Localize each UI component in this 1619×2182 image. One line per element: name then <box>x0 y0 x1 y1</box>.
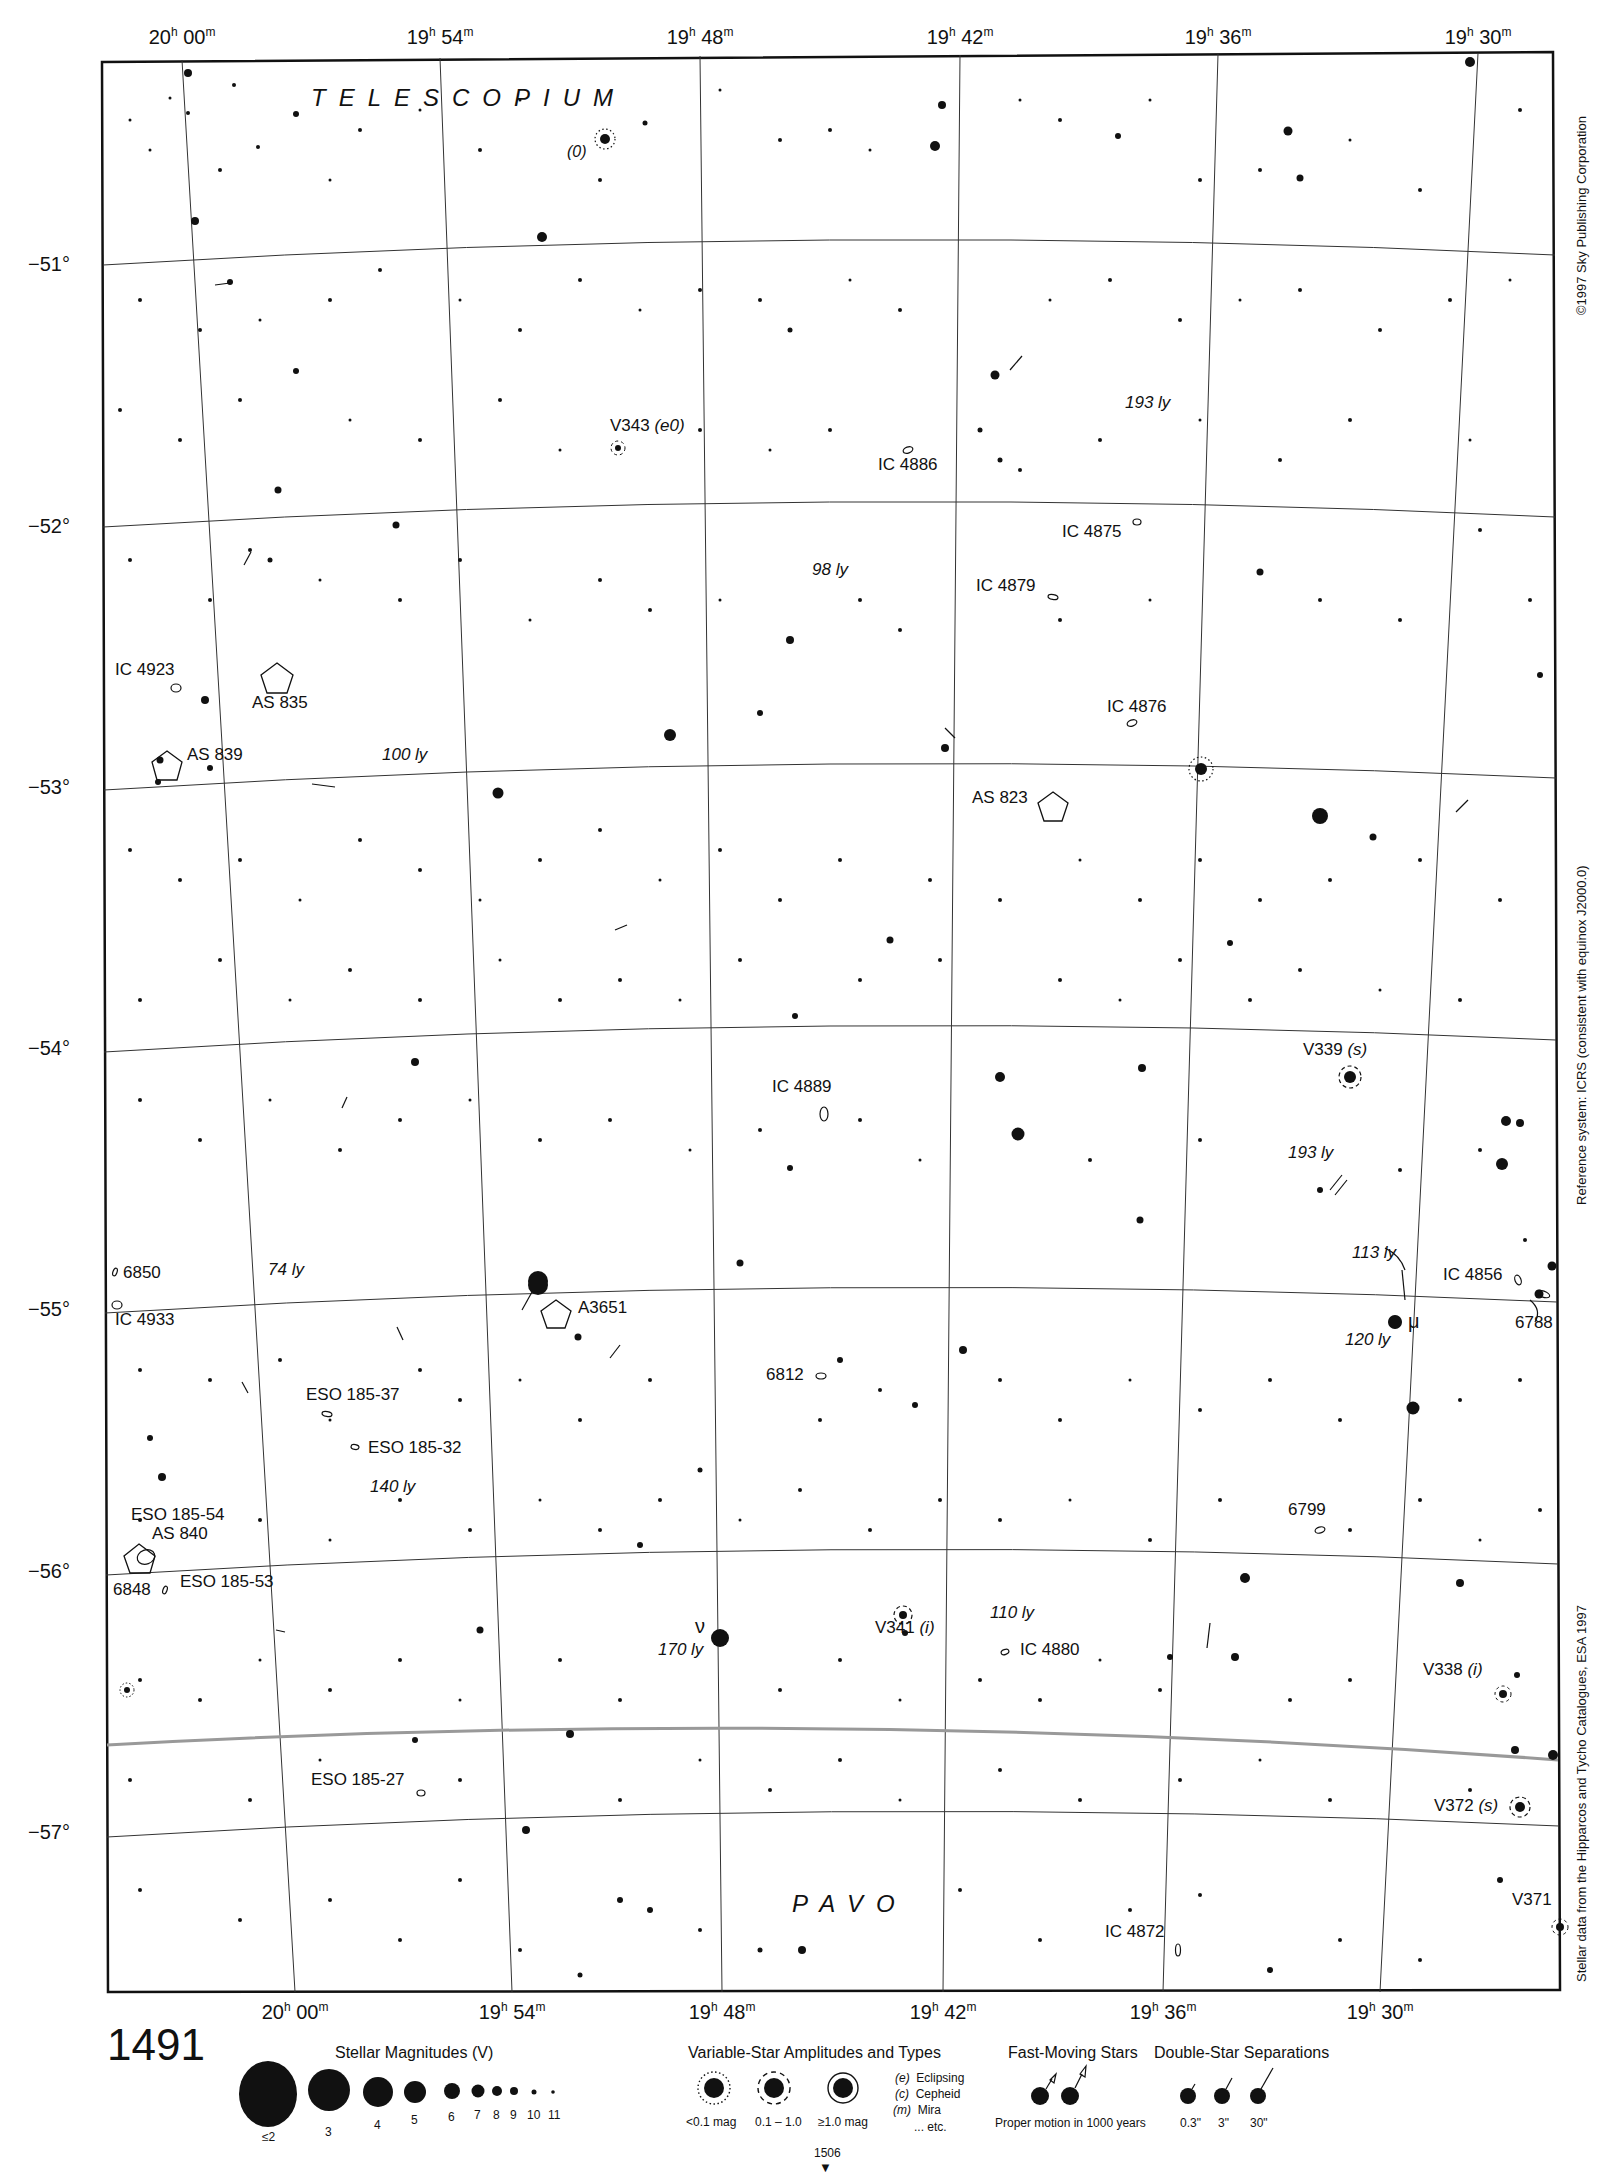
label-ic4886: IC 4886 <box>878 455 938 475</box>
label-v371: V371 <box>1512 1890 1552 1910</box>
label-distance-113: 113 ly <box>1352 1243 1396 1263</box>
next-chart-number: 1506 <box>814 2146 841 2160</box>
legend-fast-moving-title: Fast-Moving Stars <box>1008 2044 1138 2062</box>
legend-mag-11: 11 <box>548 2108 560 2122</box>
label-as835: AS 835 <box>252 693 308 713</box>
legend-mag-8: 8 <box>493 2108 500 2122</box>
legend-mag-9: 9 <box>510 2108 517 2122</box>
label-ic4933: IC 4933 <box>115 1310 175 1330</box>
label-ngc6812: 6812 <box>766 1365 804 1385</box>
ra-label-bottom-1942: 19h 42m <box>910 2000 977 2024</box>
label-distance-170: 170 ly <box>658 1640 703 1660</box>
constellation-pavo: PAVO <box>792 1890 908 1918</box>
legend-type-mira: (m) Mira <box>893 2103 941 2117</box>
legend-mag-10: 10 <box>527 2108 540 2122</box>
legend-mag-7: 7 <box>474 2108 481 2122</box>
label-ic4856: IC 4856 <box>1443 1265 1503 1285</box>
legend-mag-3: 3 <box>325 2125 332 2139</box>
label-ic4875: IC 4875 <box>1062 522 1122 542</box>
legend-type-etc: ... etc. <box>914 2120 947 2134</box>
label-eso185-53: ESO 185-53 <box>180 1572 274 1592</box>
label-distance-193-b: 193 ly <box>1288 1143 1333 1163</box>
label-a3651: A3651 <box>578 1298 627 1318</box>
label-ic4879: IC 4879 <box>976 576 1036 596</box>
label-as823: AS 823 <box>972 788 1028 808</box>
label-distance-98: 98 ly <box>812 560 848 580</box>
ra-label-bottom-1948: 19h 48m <box>689 2000 756 2024</box>
label-v339: V339 (s) <box>1303 1040 1367 1060</box>
label-eso185-27: ESO 185-27 <box>311 1770 405 1790</box>
legend-mag-5: 5 <box>411 2113 418 2127</box>
legend-type-eclipsing: (e) Eclipsing <box>895 2071 964 2085</box>
label-ngc6788: 6788 <box>1515 1313 1553 1333</box>
label-ic4880: IC 4880 <box>1020 1640 1080 1660</box>
ra-label-bottom-2000: 20h 00m <box>262 2000 329 2024</box>
data-source-note: Stellar data from the Hipparcos and Tych… <box>1574 1605 1589 1982</box>
legend-sep-03: 0.3" <box>1180 2116 1201 2130</box>
label-distance-120: 120 ly <box>1345 1330 1390 1350</box>
label-distance-74: 74 ly <box>268 1260 304 1280</box>
ra-label-bottom-1954: 19h 54m <box>479 2000 546 2024</box>
label-variable-0: (0) <box>567 143 587 161</box>
label-nu: ν <box>695 1615 705 1638</box>
ra-label-bottom-1936: 19h 36m <box>1130 2000 1197 2024</box>
legend-amp-small: <0.1 mag <box>686 2115 736 2129</box>
legend-sep-3: 3" <box>1218 2116 1229 2130</box>
label-v372: V372 (s) <box>1434 1796 1498 1816</box>
label-ngc6799: 6799 <box>1288 1500 1326 1520</box>
label-ic4876: IC 4876 <box>1107 697 1167 717</box>
legend-mag-6: 6 <box>448 2110 455 2124</box>
label-eso185-32: ESO 185-32 <box>368 1438 462 1458</box>
legend-mag-4: 4 <box>374 2118 381 2132</box>
legend-magnitude-discs <box>239 2061 555 2127</box>
label-eso185-54: ESO 185-54 <box>131 1505 225 1525</box>
label-ic4923: IC 4923 <box>115 660 175 680</box>
constellation-telescopium: TELESCOPIUM <box>311 84 626 112</box>
label-v341: V341 (i) <box>875 1618 935 1638</box>
ra-label-bottom-1930: 19h 30m <box>1347 2000 1414 2024</box>
legend-variables-title: Variable-Star Amplitudes and Types <box>688 2044 941 2062</box>
label-ic4872: IC 4872 <box>1105 1922 1165 1942</box>
label-as839: AS 839 <box>187 745 243 765</box>
label-distance-100: 100 ly <box>382 745 427 765</box>
next-chart-arrow-icon[interactable]: ▼ <box>819 2160 832 2175</box>
legend-sep-30: 30" <box>1250 2116 1268 2130</box>
label-v338: V338 (i) <box>1423 1660 1483 1680</box>
label-as840: AS 840 <box>152 1524 208 1544</box>
legend-mag-2: ≤2 <box>262 2130 275 2144</box>
label-v343: V343 (e0) <box>610 416 685 436</box>
label-distance-140: 140 ly <box>370 1477 415 1497</box>
chart-number: 1491 <box>107 2020 205 2070</box>
reference-system-note: Reference system: ICRS (consistent with … <box>1574 865 1589 1205</box>
label-ngc6848: 6848 <box>113 1580 151 1600</box>
legend-amp-large: ≥1.0 mag <box>818 2115 868 2129</box>
label-distance-110: 110 ly <box>990 1603 1034 1623</box>
copyright-note: ©1997 Sky Publishing Corporation <box>1574 116 1589 315</box>
legend-proper-motion-caption: Proper motion in 1000 years <box>995 2116 1146 2130</box>
label-eso185-37: ESO 185-37 <box>306 1385 400 1405</box>
legend-magnitudes-title: Stellar Magnitudes (V) <box>335 2044 493 2062</box>
legend-amp-mid: 0.1 – 1.0 <box>755 2115 802 2129</box>
label-distance-193-a: 193 ly <box>1125 393 1170 413</box>
label-mu: μ <box>1408 1310 1420 1333</box>
label-ngc6850: 6850 <box>123 1263 161 1283</box>
legend-double-star-title: Double-Star Separations <box>1154 2044 1329 2062</box>
legend-type-cepheid: (c) Cepheid <box>895 2087 960 2101</box>
label-ic4889: IC 4889 <box>772 1077 832 1097</box>
